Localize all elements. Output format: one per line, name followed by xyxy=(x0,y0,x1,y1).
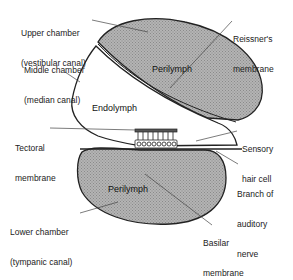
label-line: Sensory xyxy=(242,144,273,154)
label-line: membrane xyxy=(15,173,56,183)
basilar-membrane-label: Basilar membrane xyxy=(203,218,244,280)
label-line: Lower chamber xyxy=(10,227,72,237)
label-line: (tympanic canal) xyxy=(10,257,72,267)
middle-chamber-label: Middle chamber (median canal) xyxy=(24,45,84,115)
lower-perilymph-label: Perilymph xyxy=(108,184,148,194)
tectoral-membrane-label: Tectoral membrane xyxy=(15,123,56,193)
label-line: Upper chamber xyxy=(21,28,86,38)
lower-chamber-label: Lower chamber (tympanic canal) xyxy=(10,207,72,277)
label-line: Branch of xyxy=(237,189,273,199)
label-line: Tectoral xyxy=(15,143,56,153)
label-line: (median canal) xyxy=(24,95,84,105)
lower-chamber-shape xyxy=(78,148,227,224)
tectoral-membrane-shape xyxy=(135,129,177,132)
reissners-membrane-label: Reissner's membrane xyxy=(233,14,274,84)
label-line: Basilar xyxy=(203,238,244,248)
upper-perilymph-label: Perilymph xyxy=(152,64,192,74)
label-line: membrane xyxy=(233,64,274,74)
label-line: membrane xyxy=(203,268,244,278)
label-line: Middle chamber xyxy=(24,65,84,75)
endolymph-label: Endolymph xyxy=(92,103,137,113)
label-line: Reissner's xyxy=(233,34,274,44)
